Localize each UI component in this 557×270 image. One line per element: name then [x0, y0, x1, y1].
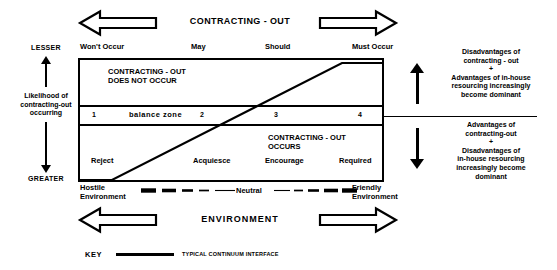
upper-zone-line2: DOES NOT OCCUR — [108, 76, 186, 85]
env-right-line2: Environment — [352, 193, 398, 202]
right-down-shaft — [416, 128, 419, 160]
zone-number-4: 4 — [358, 111, 362, 118]
diagram-title: CONTRACTING - OUT — [170, 16, 310, 26]
env-middle-label: Neutral — [236, 187, 262, 196]
env-left-line2: Environment — [80, 193, 126, 202]
left-axis-down-arrowhead — [41, 165, 51, 173]
response-label-required: Required — [339, 156, 372, 165]
zone-number-2: 2 — [200, 111, 204, 118]
upper-zone-label: CONTRACTING - OUT DOES NOT OCCUR — [108, 67, 186, 85]
right-divider-line — [384, 116, 537, 117]
left-axis-lower-shaft — [45, 122, 47, 166]
right-arrow-icon — [318, 207, 398, 233]
right-lower-line5: increasingly become — [427, 164, 555, 173]
column-header-should: Should — [265, 42, 290, 51]
right-lower-line4: in-house resourcing — [427, 155, 555, 164]
column-header-must-occur: Must Occur — [352, 42, 393, 51]
left-arrow-icon — [78, 10, 158, 36]
right-upper-line2: contracting - out — [427, 57, 555, 66]
lower-zone-label: CONTRACTING - OUT OCCURS — [268, 133, 346, 151]
top-left-arrow — [78, 10, 158, 36]
top-right-arrow — [318, 10, 398, 36]
right-annotation-lower: Advantages of contracting-out + Disadvan… — [427, 121, 555, 181]
left-axis-title: Likelihood of contracting-out occurring — [2, 92, 90, 118]
left-axis-title-line2: contracting-out — [2, 101, 90, 110]
left-axis-upper-shaft — [45, 63, 47, 87]
right-lower-line6: dominant — [427, 173, 555, 182]
right-lower-plus: + — [427, 138, 555, 147]
left-arrow-icon — [78, 207, 158, 233]
zone-number-1: 1 — [92, 111, 96, 118]
key-line-sample — [116, 253, 174, 256]
response-label-encourage: Encourage — [265, 156, 304, 165]
right-lower-line2: contracting-out — [427, 130, 555, 139]
env-right-label: Friendly Environment — [352, 184, 398, 201]
left-axis-title-line3: occurring — [2, 109, 90, 118]
key-description: TYPICAL CONTINUUM INTERFACE — [182, 251, 279, 257]
environment-axis-title: ENVIRONMENT — [170, 214, 310, 224]
key-label: KEY — [85, 250, 102, 259]
right-up-shaft — [416, 72, 419, 104]
zone-number-3: 3 — [274, 111, 278, 118]
response-label-reject: Reject — [91, 156, 114, 165]
lower-zone-line2: OCCURS — [268, 142, 346, 151]
right-down-arrowhead — [410, 159, 424, 169]
right-upper-line5: become dominant — [427, 91, 555, 100]
lower-zone-line1: CONTRACTING - OUT — [268, 133, 346, 142]
response-label-acquiesce: Acquiesce — [193, 156, 231, 165]
bottom-right-arrow — [318, 207, 398, 233]
env-left-label: Hostile Environment — [80, 184, 126, 201]
right-lower-line1: Advantages of — [427, 121, 555, 130]
column-header-wont-occur: Won't Occur — [80, 42, 124, 51]
right-upper-line4: resourcing increasingly — [427, 82, 555, 91]
right-arrow-icon — [318, 10, 398, 36]
balance-zone-label: balance zone — [129, 110, 182, 119]
left-axis-top-label: LESSER — [14, 44, 78, 51]
right-lower-line3: Disadvantages of — [427, 147, 555, 156]
upper-zone-line1: CONTRACTING - OUT — [108, 67, 186, 76]
left-axis-bottom-label: GREATER — [14, 175, 78, 182]
left-axis-title-line1: Likelihood of — [2, 92, 90, 101]
column-header-may: May — [191, 42, 206, 51]
right-upper-line1: Disadvantages of — [427, 48, 555, 57]
right-upper-plus: + — [427, 65, 555, 74]
bottom-left-arrow — [78, 207, 158, 233]
right-upper-line3: Advantages of in-house — [427, 74, 555, 83]
right-annotation-upper: Disadvantages of contracting - out + Adv… — [427, 48, 555, 100]
